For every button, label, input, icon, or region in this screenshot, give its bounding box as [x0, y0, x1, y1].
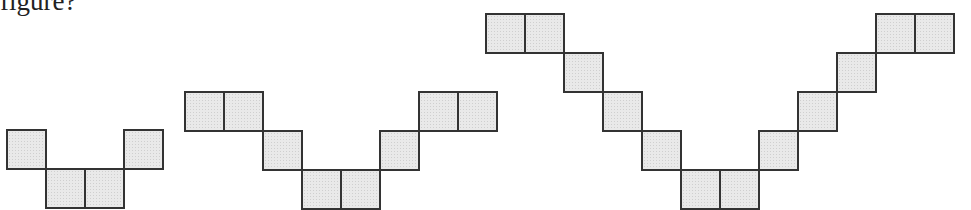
square-tile — [123, 129, 164, 170]
square-tile — [6, 129, 47, 170]
square-tile — [84, 168, 125, 209]
square-tile — [758, 130, 799, 171]
square-tile — [719, 169, 760, 210]
square-tile — [602, 91, 643, 132]
square-tile — [797, 91, 838, 132]
square-tile — [45, 168, 86, 209]
square-tile — [680, 169, 721, 210]
square-tile — [914, 13, 955, 54]
square-tile — [262, 130, 303, 171]
square-tile — [301, 169, 342, 210]
square-tile — [836, 52, 877, 93]
question-text: figure? — [0, 0, 76, 16]
square-tile — [524, 13, 565, 54]
square-tile — [340, 169, 381, 210]
square-tile — [379, 130, 420, 171]
square-tile — [563, 52, 604, 93]
square-tile — [875, 13, 916, 54]
square-tile — [184, 91, 225, 132]
square-tile — [457, 91, 498, 132]
square-tile — [418, 91, 459, 132]
square-tile — [641, 130, 682, 171]
square-tile — [223, 91, 264, 132]
square-tile — [485, 13, 526, 54]
